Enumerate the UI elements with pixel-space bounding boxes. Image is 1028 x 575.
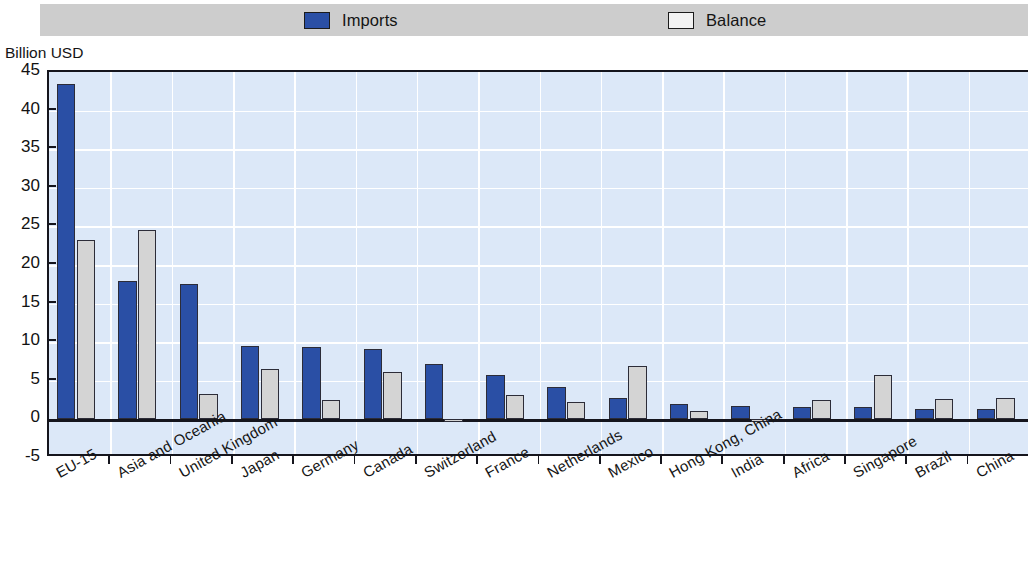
x-axis-tick-mark — [292, 455, 294, 464]
y-axis-tick-label: 5 — [0, 369, 40, 389]
chart-plot-area — [47, 70, 1028, 456]
x-axis-tick-mark — [415, 455, 417, 464]
y-axis-tick-mark — [47, 339, 56, 341]
legend-label-balance: Balance — [706, 11, 766, 30]
bar-imports-4 — [302, 347, 320, 420]
x-axis-tick-mark — [108, 455, 110, 464]
bar-balance-8 — [567, 402, 585, 419]
y-axis-tick-label: 35 — [0, 137, 40, 157]
outline-square-icon — [668, 12, 694, 29]
bar-balance-15 — [996, 398, 1014, 420]
bar-balance-7 — [506, 395, 524, 419]
gridline-vertical — [601, 72, 603, 454]
bar-balance-4 — [322, 400, 340, 419]
gridline-vertical — [662, 72, 664, 454]
bar-imports-6 — [425, 364, 443, 420]
bar-imports-1 — [118, 281, 136, 419]
x-axis-tick-mark — [905, 455, 907, 464]
bar-imports-8 — [547, 387, 565, 419]
y-axis-tick-mark — [47, 262, 56, 264]
bar-imports-14 — [915, 409, 933, 420]
x-axis-tick-mark — [170, 455, 172, 464]
y-axis-tick-mark — [47, 301, 56, 303]
legend-entry-imports: Imports — [304, 11, 398, 30]
bar-imports-10 — [670, 404, 688, 419]
gridline-vertical — [540, 72, 542, 454]
gridline-vertical — [233, 72, 235, 454]
gridline-vertical — [723, 72, 725, 454]
x-axis-tick-mark — [660, 455, 662, 464]
bar-imports-3 — [241, 346, 259, 419]
y-axis-tick-label: 45 — [0, 60, 40, 80]
legend-label-imports: Imports — [342, 11, 398, 30]
legend-entry-balance: Balance — [668, 11, 766, 30]
bar-balance-1 — [138, 230, 156, 419]
gridline-vertical — [417, 72, 419, 454]
gridline-vertical — [110, 72, 112, 454]
y-axis-tick-label: 0 — [0, 407, 40, 427]
gridline-vertical — [785, 72, 787, 454]
bar-imports-15 — [977, 409, 995, 419]
plot-frame — [47, 70, 1028, 456]
bar-balance-12 — [812, 400, 830, 419]
gridline-horizontal — [49, 149, 1028, 151]
y-axis-tick-label: 15 — [0, 292, 40, 312]
bar-imports-0 — [57, 84, 75, 420]
gridline-vertical — [478, 72, 480, 454]
bar-imports-13 — [854, 407, 872, 419]
y-axis-tick-label: 30 — [0, 176, 40, 196]
x-axis-category-labels: EU-15Asia and OceaniaUnited KingdomJapan… — [47, 456, 1028, 575]
bar-imports-11 — [731, 406, 749, 420]
x-axis-tick-mark — [538, 455, 540, 464]
gridline-vertical — [969, 72, 971, 454]
y-axis-tick-label: -5 — [0, 446, 40, 466]
gridline-horizontal — [49, 188, 1028, 190]
gridline-horizontal — [49, 265, 1028, 267]
y-axis-tick-mark — [47, 185, 56, 187]
gridline-vertical — [294, 72, 296, 454]
y-axis-tick-label: 20 — [0, 253, 40, 273]
bar-imports-9 — [609, 398, 627, 420]
y-axis-tick-mark — [47, 146, 56, 148]
x-axis-tick-mark — [967, 455, 969, 464]
x-axis-tick-mark — [476, 455, 478, 464]
x-axis-tick-mark — [844, 455, 846, 464]
bar-balance-0 — [77, 240, 95, 419]
x-axis-tick-mark — [231, 455, 233, 464]
bar-balance-14 — [935, 399, 953, 420]
gridline-vertical — [356, 72, 358, 454]
x-axis-tick-mark — [721, 455, 723, 464]
bar-imports-7 — [486, 375, 504, 419]
x-axis-tick-mark — [783, 455, 785, 464]
gridline-vertical — [172, 72, 174, 454]
y-axis-tick-mark — [47, 108, 56, 110]
bar-imports-2 — [180, 284, 198, 420]
y-axis-tick-label: 10 — [0, 330, 40, 350]
bar-imports-5 — [364, 349, 382, 419]
bar-balance-6 — [444, 419, 462, 422]
gridline-vertical — [907, 72, 909, 454]
bar-balance-10 — [690, 411, 708, 419]
bar-balance-3 — [261, 369, 279, 419]
gridline-horizontal — [49, 226, 1028, 228]
y-axis-tick-mark — [47, 223, 56, 225]
y-axis-tick-label: 25 — [0, 214, 40, 234]
chart-legend: Imports Balance — [40, 4, 1028, 36]
bar-balance-13 — [874, 375, 892, 420]
gridline-horizontal — [49, 111, 1028, 113]
filled-square-icon — [304, 12, 330, 29]
y-axis-tick-label: 40 — [0, 99, 40, 119]
x-axis-tick-mark — [599, 455, 601, 464]
y-axis-tick-mark — [47, 378, 56, 380]
bar-balance-9 — [628, 366, 646, 419]
x-axis-tick-mark — [354, 455, 356, 464]
gridline-vertical — [846, 72, 848, 454]
bar-balance-5 — [383, 372, 401, 420]
bar-imports-12 — [793, 407, 811, 419]
